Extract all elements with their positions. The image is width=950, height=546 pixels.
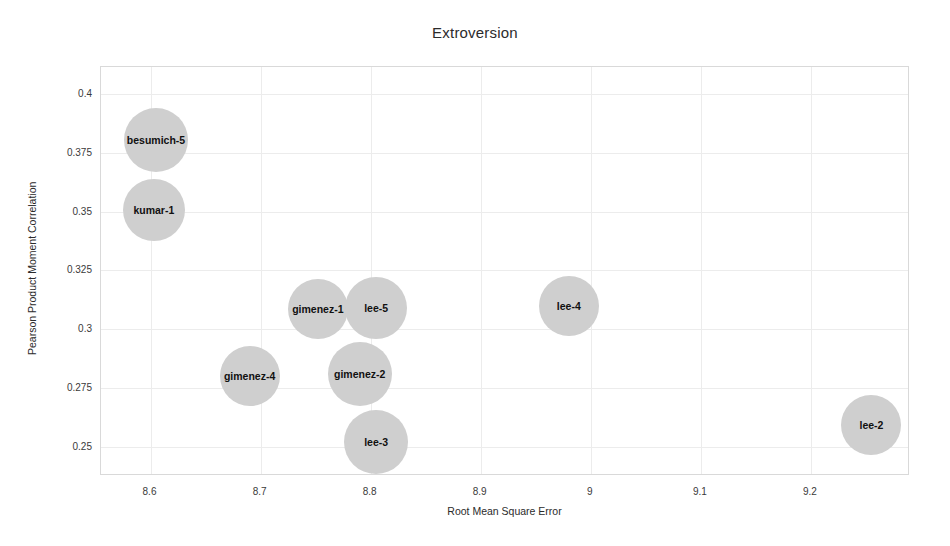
bubble-label: lee-2 xyxy=(860,419,884,431)
bubble-point[interactable]: kumar-1 xyxy=(123,179,185,241)
x-tick-label: 9 xyxy=(587,486,593,497)
bubble-label: lee-4 xyxy=(557,300,581,312)
gridline-horizontal xyxy=(101,329,908,330)
gridline-horizontal xyxy=(101,153,908,154)
y-tick-label: 0.3 xyxy=(52,323,92,334)
bubble-label: gimenez-2 xyxy=(334,368,385,380)
bubble-point[interactable]: gimenez-4 xyxy=(220,346,280,406)
gridline-horizontal xyxy=(101,447,908,448)
y-tick-label: 0.275 xyxy=(52,381,92,392)
bubble-point[interactable]: lee-3 xyxy=(344,410,408,474)
x-axis-title: Root Mean Square Error xyxy=(100,505,909,517)
bubble-label: gimenez-4 xyxy=(224,370,275,382)
bubble-point[interactable]: besumich-5 xyxy=(124,108,188,172)
x-tick-label: 8.7 xyxy=(253,486,267,497)
chart-title: Extroversion xyxy=(0,24,950,41)
x-tick-label: 9.2 xyxy=(803,486,817,497)
gridline-horizontal xyxy=(101,212,908,213)
y-tick-label: 0.375 xyxy=(52,146,92,157)
gridline-horizontal xyxy=(101,94,908,95)
x-tick-label: 8.8 xyxy=(363,486,377,497)
bubble-point[interactable]: gimenez-2 xyxy=(328,342,392,406)
x-tick-label: 9.1 xyxy=(693,486,707,497)
x-tick-label: 8.9 xyxy=(473,486,487,497)
gridline-horizontal xyxy=(101,270,908,271)
bubble-point[interactable]: lee-5 xyxy=(345,277,407,339)
y-axis-title: Pearson Product Moment Correlation xyxy=(26,182,38,355)
bubble-label: lee-5 xyxy=(364,302,388,314)
plot-area: besumich-5kumar-1gimenez-1lee-5gimenez-4… xyxy=(100,66,909,475)
bubble-label: gimenez-1 xyxy=(292,303,343,315)
bubble-label: kumar-1 xyxy=(133,204,174,216)
bubble-point[interactable]: gimenez-1 xyxy=(288,279,348,339)
bubble-label: lee-3 xyxy=(364,436,388,448)
y-tick-label: 0.325 xyxy=(52,264,92,275)
y-tick-label: 0.4 xyxy=(52,88,92,99)
bubble-chart: Extroversion besumich-5kumar-1gimenez-1l… xyxy=(0,0,950,546)
bubble-label: besumich-5 xyxy=(127,134,185,146)
y-tick-label: 0.35 xyxy=(52,205,92,216)
x-tick-label: 8.6 xyxy=(143,486,157,497)
bubble-point[interactable]: lee-4 xyxy=(539,276,599,336)
y-tick-label: 0.25 xyxy=(52,440,92,451)
